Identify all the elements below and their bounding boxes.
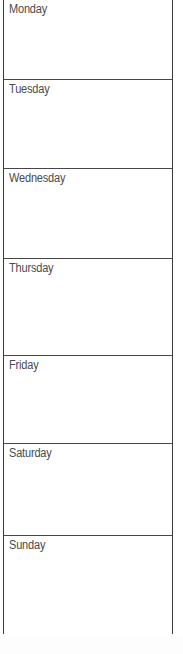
table-row[interactable]: Wednesday <box>4 168 172 258</box>
day-label-tuesday: Tuesday <box>9 82 50 96</box>
scan-bottom-margin <box>0 636 183 654</box>
weekly-planner-table: Monday Tuesday Wednesday Thursday Friday… <box>3 0 173 634</box>
day-label-saturday: Saturday <box>9 446 52 460</box>
day-label-monday: Monday <box>9 2 47 16</box>
table-row[interactable]: Friday <box>4 355 172 443</box>
day-note-area-friday[interactable] <box>4 374 172 443</box>
day-label-wednesday: Wednesday <box>9 171 65 185</box>
day-note-area-thursday[interactable] <box>4 277 172 355</box>
day-label-sunday: Sunday <box>9 538 45 552</box>
table-row[interactable]: Saturday <box>4 443 172 535</box>
day-note-area-monday[interactable] <box>4 18 172 79</box>
day-note-area-wednesday[interactable] <box>4 187 172 258</box>
day-label-friday: Friday <box>9 358 39 372</box>
day-note-area-saturday[interactable] <box>4 462 172 535</box>
scan-right-margin <box>174 0 183 654</box>
planner-scan-page: Monday Tuesday Wednesday Thursday Friday… <box>0 0 183 654</box>
table-row[interactable]: Tuesday <box>4 79 172 168</box>
table-row[interactable]: Sunday <box>4 535 172 634</box>
table-row[interactable]: Thursday <box>4 258 172 355</box>
day-label-thursday: Thursday <box>9 261 53 275</box>
table-row[interactable]: Monday <box>4 0 172 79</box>
day-note-area-sunday[interactable] <box>4 554 172 634</box>
day-note-area-tuesday[interactable] <box>4 98 172 168</box>
